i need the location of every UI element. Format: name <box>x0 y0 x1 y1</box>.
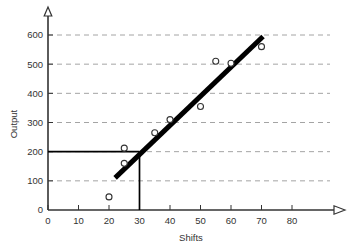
y-tick-label-100: 100 <box>27 175 43 186</box>
x-tick-label-20: 20 <box>104 215 115 226</box>
data-point-4 <box>167 117 173 123</box>
data-point-1 <box>121 160 127 166</box>
y-axis-tick-labels: 0100200300400500600 <box>27 29 43 215</box>
data-point-6 <box>213 58 219 64</box>
x-tick-label-40: 40 <box>165 215 176 226</box>
x-axis-tick-labels: 01020304050607080 <box>45 215 297 226</box>
chart-svg: 01020304050607080 0100200300400500600 Sh… <box>0 0 354 250</box>
x-tick-label-80: 80 <box>287 215 298 226</box>
scatter-chart-output-vs-shifts: 01020304050607080 0100200300400500600 Sh… <box>0 0 354 250</box>
axes <box>44 7 345 214</box>
y-tick-label-300: 300 <box>27 117 43 128</box>
data-point-7 <box>228 60 234 66</box>
y-tick-label-0: 0 <box>38 204 43 215</box>
x-tick-label-10: 10 <box>73 215 84 226</box>
y-axis-arrow-icon <box>44 7 52 16</box>
data-point-3 <box>152 130 158 136</box>
x-tick-label-70: 70 <box>256 215 267 226</box>
data-points <box>106 44 265 200</box>
y-tick-label-600: 600 <box>27 29 43 40</box>
x-tick-label-60: 60 <box>226 215 237 226</box>
data-point-0 <box>106 194 112 200</box>
x-axis-arrow-icon <box>334 206 345 214</box>
trend-line <box>115 36 263 177</box>
x-tick-label-50: 50 <box>195 215 206 226</box>
data-point-8 <box>259 44 265 50</box>
y-tick-label-400: 400 <box>27 88 43 99</box>
y-tick-label-500: 500 <box>27 59 43 70</box>
data-point-2 <box>121 145 127 151</box>
y-axis-title: Output <box>8 109 19 138</box>
x-tick-label-30: 30 <box>134 215 145 226</box>
x-axis-title: Shifts <box>179 232 203 243</box>
y-tick-label-200: 200 <box>27 146 43 157</box>
x-tick-label-0: 0 <box>45 215 50 226</box>
fitted-regression-line <box>115 36 263 177</box>
data-point-5 <box>198 103 204 109</box>
